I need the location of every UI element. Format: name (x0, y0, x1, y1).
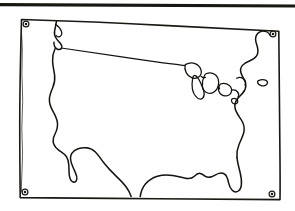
map-illustration-canvas (0, 0, 295, 211)
grommet-top-left (23, 21, 29, 27)
paper-background (0, 0, 295, 211)
grommet-top-right (270, 31, 276, 37)
grommet-bottom-right (269, 191, 275, 197)
grommet-bottom-left (22, 189, 28, 195)
illustration-page: Outline map of the contiguous United Sta… (0, 0, 295, 211)
